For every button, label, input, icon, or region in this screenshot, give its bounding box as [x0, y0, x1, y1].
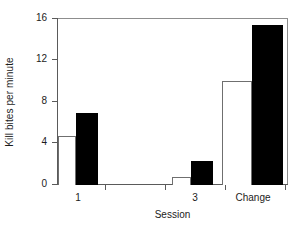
y-tick-label-4: 4: [7, 137, 47, 147]
bar-session-1-filled: [76, 113, 98, 185]
bar-session-1-open: [58, 136, 76, 185]
x-tick-3: [225, 185, 226, 190]
y-tick-label-8: 8: [7, 96, 47, 106]
y-tick-label-0: 0: [7, 179, 47, 189]
x-tick-label-session-1: 1: [48, 192, 108, 204]
x-tick-label-change: Change: [223, 192, 283, 204]
x-tick-change: [285, 185, 286, 190]
plot-frame-right: [287, 18, 288, 185]
bar-session-3-filled: [191, 161, 213, 185]
y-tick-4: [52, 142, 57, 143]
bar-change-filled: [252, 25, 283, 185]
y-tick-label-12: 12: [7, 54, 47, 64]
x-tick-mid: [165, 185, 166, 190]
bar-chart: Kill bites per minute 16 12 8 4 0 1 3 Ch…: [0, 0, 296, 228]
bar-change-open: [222, 81, 252, 185]
plot-frame-top: [57, 18, 288, 19]
x-tick-label-session-3: 3: [165, 192, 225, 204]
y-tick-0: [52, 184, 57, 185]
y-tick-label-16: 16: [7, 13, 47, 23]
x-tick-1: [105, 185, 106, 190]
y-tick-12: [52, 59, 57, 60]
x-axis-title: Session: [57, 209, 288, 221]
bar-session-3-open: [172, 177, 191, 185]
y-tick-16: [52, 18, 57, 19]
y-tick-8: [52, 101, 57, 102]
